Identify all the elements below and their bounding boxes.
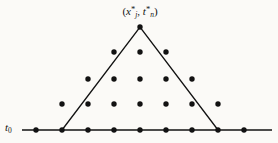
grid-point (111, 76, 116, 81)
grid-point (111, 49, 116, 54)
grid-point (241, 127, 246, 132)
grid-point (137, 127, 142, 132)
initial-time-label: t0 (5, 122, 12, 135)
apex-point-label: (x*j, t*n) (122, 5, 157, 19)
grid-point (85, 76, 90, 81)
grid-point (137, 24, 142, 29)
grid-point (33, 127, 38, 132)
grid-point (189, 101, 194, 106)
diagram-canvas (0, 0, 278, 143)
initial-time-subscript: 0 (8, 126, 12, 135)
grid-point (163, 101, 168, 106)
grid-point (163, 76, 168, 81)
grid-point (111, 101, 116, 106)
grid-point (59, 101, 64, 106)
grid-point (85, 127, 90, 132)
grid-point (59, 127, 64, 132)
apex-close-paren: ) (154, 5, 158, 17)
grid-point (215, 127, 220, 132)
grid-point (189, 127, 194, 132)
grid-point (85, 101, 90, 106)
grid-point (163, 127, 168, 132)
grid-point (137, 101, 142, 106)
grid-point-lattice (33, 24, 246, 132)
figure-container: t0 (x*j, t*n) (0, 0, 278, 143)
grid-point (189, 76, 194, 81)
grid-point (137, 76, 142, 81)
grid-point (215, 101, 220, 106)
grid-point (163, 49, 168, 54)
grid-point (111, 127, 116, 132)
grid-point (137, 49, 142, 54)
